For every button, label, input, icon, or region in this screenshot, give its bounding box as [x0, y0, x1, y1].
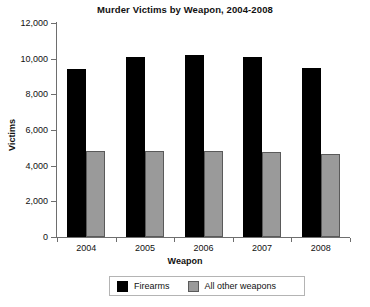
y-axis-tick-label: 2,000: [25, 196, 48, 206]
x-axis-title: Weapon: [0, 256, 370, 266]
x-axis-tick: [291, 238, 292, 242]
y-axis-tick-label: 10,000: [20, 54, 48, 64]
chart-legend: FirearmsAll other weapons: [109, 276, 305, 296]
bar-2005-firearms: [126, 57, 145, 237]
x-axis-tick-label-2008: 2008: [311, 243, 331, 253]
bar-2004-all-other-weapons: [86, 151, 105, 237]
bar-2006-all-other-weapons: [204, 151, 223, 237]
legend-entry-all-other-weapons: All other weapons: [188, 281, 277, 292]
legend-entry-firearms: Firearms: [117, 281, 170, 292]
bar-2004-firearms: [67, 69, 86, 237]
y-axis-tick: [51, 166, 56, 167]
y-axis-tick: [51, 94, 56, 95]
y-axis-tick-label: 0: [43, 232, 48, 242]
legend-swatch-icon: [188, 281, 199, 292]
y-axis-tick: [51, 201, 56, 202]
y-axis-tick-label: 8,000: [25, 89, 48, 99]
x-axis-tick: [57, 238, 58, 242]
bar-2008-all-other-weapons: [321, 154, 340, 237]
x-axis-tick-label-2006: 2006: [193, 243, 213, 253]
chart-title: Murder Victims by Weapon, 2004-2008: [0, 4, 370, 15]
x-axis-tick: [350, 238, 351, 242]
x-axis-line: [56, 237, 350, 238]
x-axis-tick-label-2004: 2004: [76, 243, 96, 253]
x-axis-tick: [174, 238, 175, 242]
bar-2005-all-other-weapons: [145, 151, 164, 237]
x-axis-tick: [116, 238, 117, 242]
x-axis-tick-label-2007: 2007: [252, 243, 272, 253]
plot-area: [57, 23, 350, 237]
x-axis-tick-label-2005: 2005: [135, 243, 155, 253]
legend-swatch-icon: [117, 281, 128, 292]
bar-2008-firearms: [302, 68, 321, 237]
bar-2007-all-other-weapons: [262, 152, 281, 237]
legend-label: All other weapons: [205, 281, 277, 291]
legend-label: Firearms: [134, 281, 170, 291]
y-axis-tick-label: 4,000: [25, 161, 48, 171]
y-axis-tick-label: 12,000: [20, 18, 48, 28]
bar-2007-firearms: [243, 57, 262, 237]
y-axis-tick: [51, 59, 56, 60]
y-axis-title: Victims: [7, 105, 17, 165]
bar-chart: Murder Victims by Weapon, 2004-2008 Vict…: [0, 0, 370, 307]
bar-2006-firearms: [185, 55, 204, 237]
y-axis-tick: [51, 237, 56, 238]
y-axis-tick: [51, 23, 56, 24]
y-axis-tick-label: 6,000: [25, 125, 48, 135]
x-axis-tick: [233, 238, 234, 242]
y-axis-tick: [51, 130, 56, 131]
